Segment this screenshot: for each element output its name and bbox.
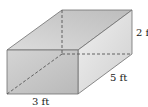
depth-label: 5 ft <box>110 72 127 83</box>
height-label: 2 ft <box>136 27 148 38</box>
prism-diagram: 2 ft 5 ft 3 ft <box>0 0 148 107</box>
width-label: 3 ft <box>32 96 49 107</box>
front-face <box>7 50 78 94</box>
